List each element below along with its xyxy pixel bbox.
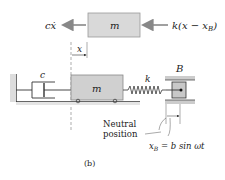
- svg-text:Neutral: Neutral: [103, 119, 136, 129]
- moving-support-b: B: [165, 63, 195, 104]
- damper: c: [16, 70, 71, 98]
- support-displacement-indicator: [159, 104, 180, 136]
- damper-label: c: [40, 70, 45, 80]
- figure-caption: (b): [84, 159, 95, 168]
- neutral-position-label: Neutral position: [103, 119, 161, 139]
- support-motion-equation: xB = b sin ωt: [149, 141, 205, 152]
- damping-force-label: cẋ: [45, 20, 57, 31]
- mass-block: m: [71, 75, 123, 103]
- spring-mass-damper-diagram: m cẋ k(x − xB) x c m k: [0, 0, 225, 180]
- spring-force-label: k(x − xB): [172, 20, 217, 33]
- fbd-mass-label: m: [110, 20, 119, 31]
- free-body-diagram: m cẋ k(x − xB): [45, 13, 217, 37]
- support-label: B: [175, 63, 183, 74]
- spring: k: [123, 74, 166, 94]
- displacement-label: x: [77, 44, 82, 54]
- mass-label: m: [92, 83, 101, 94]
- spring-label: k: [145, 74, 150, 84]
- svg-text:position: position: [103, 129, 138, 139]
